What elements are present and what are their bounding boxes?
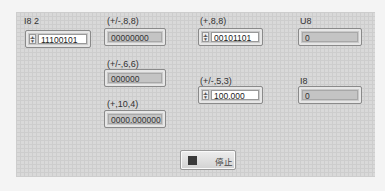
fx-u104-label: (+,10,4) [107,99,138,109]
i8-2-label: I8 2 [24,16,39,26]
spinner[interactable]: ▲ ▼ [202,32,209,42]
fx-s53-label: (+/-,5,3) [200,76,232,86]
spinner[interactable]: ▲ ▼ [202,90,209,100]
decrement-arrow-icon[interactable]: ▼ [203,37,208,41]
i8-value: 0 [302,90,358,100]
fx-s66-indicator: 000000 [104,69,166,87]
fx-s53-control[interactable]: ▲ ▼ 100.000 [198,86,263,104]
fx-u88-value[interactable]: 00101101 [211,32,259,42]
fx-u104-indicator: 0000.000000 [104,110,166,128]
fx-s88-label: (+/-,8,8) [107,16,139,26]
spinner[interactable]: ▲ ▼ [29,34,36,44]
stop-button[interactable]: 停止 [180,150,236,170]
fx-s66-label: (+/-,6,6) [107,59,139,69]
i8-label: I8 [300,76,308,86]
fx-s88-indicator: 00000000 [104,28,166,46]
stop-square-icon [188,156,197,165]
fx-u88-control[interactable]: ▲ ▼ 00101101 [198,28,263,46]
fx-s88-value: 00000000 [108,32,162,42]
u8-value: 0 [302,32,358,42]
fx-u104-value: 0000.000000 [108,114,162,124]
u8-indicator: 0 [298,28,362,46]
fx-u88-label: (+,8,8) [200,16,226,26]
i8-indicator: 0 [298,86,362,104]
decrement-arrow-icon[interactable]: ▼ [203,95,208,99]
i8-2-value[interactable]: 11100101 [38,34,87,44]
stop-button-label: 停止 [215,155,233,167]
fx-s66-value: 000000 [108,73,162,83]
fx-s53-value[interactable]: 100.000 [211,90,259,100]
i8-2-control[interactable]: ▲ ▼ 11100101 [25,30,91,48]
decrement-arrow-icon[interactable]: ▼ [30,39,35,43]
u8-label: U8 [300,16,312,26]
